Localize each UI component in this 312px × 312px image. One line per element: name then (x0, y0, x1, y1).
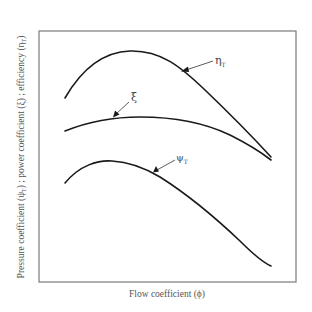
power-coefficient-label: ξ (131, 91, 137, 104)
y-axis-label: Pressure coefficient (ψT) ; power coeffi… (16, 36, 27, 279)
x-axis-label: Flow coefficient (ϕ) (129, 289, 205, 300)
performance-curves-chart: ηT ξ ψT Flow coefficient (ϕ) Pressure co… (0, 0, 312, 312)
